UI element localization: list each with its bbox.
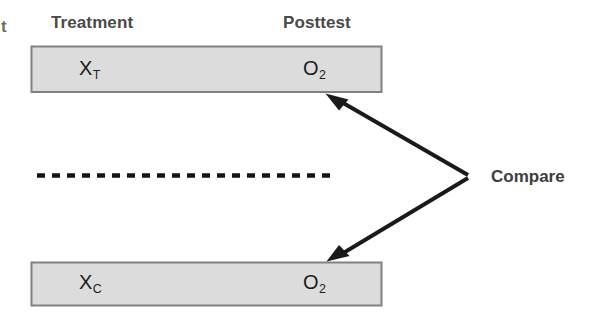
treatment-group-x-subscript: T <box>93 68 101 82</box>
design-diagram: t Treatment Posttest XT O2 XC O2 Compare <box>0 0 604 328</box>
treatment-group-o-symbol: O <box>303 57 319 79</box>
control-group-x-symbol: X <box>79 271 92 293</box>
treatment-group-o-subscript: 2 <box>319 68 326 82</box>
column-header-posttest: Posttest <box>283 14 351 31</box>
control-group-treatment-cell: XC <box>79 272 101 292</box>
compare-annotation-label: Compare <box>491 168 565 185</box>
control-group-o-subscript: 2 <box>319 282 326 296</box>
compare-arrowhead-lower <box>327 245 350 262</box>
treatment-group-posttest-cell: O2 <box>303 58 325 78</box>
treatment-group-x-symbol: X <box>79 57 92 79</box>
compare-arrow-shaft-upper <box>338 100 468 175</box>
compare-arrow-shaft-lower <box>340 178 468 255</box>
control-group-x-subscript: C <box>93 282 102 296</box>
compare-arrowhead-upper <box>326 94 349 111</box>
column-header-treatment: Treatment <box>51 14 133 31</box>
control-group-posttest-cell: O2 <box>303 272 325 292</box>
control-group-o-symbol: O <box>303 271 319 293</box>
treatment-group-treatment-cell: XT <box>79 58 100 78</box>
clipped-edge-text: t <box>1 18 7 35</box>
